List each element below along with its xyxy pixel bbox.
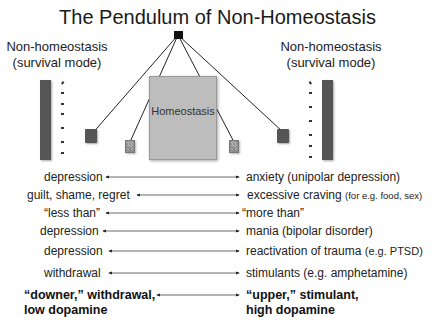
row-5-right-main: reactivation of trauma [246, 244, 361, 258]
row-1-right-main: anxiety (unipolar depression) [246, 170, 400, 184]
row-5-left: depression [44, 244, 103, 258]
row-3-right-main: “more than” [242, 206, 304, 220]
double-arrows [0, 0, 435, 334]
row-5-right-note: (e.g. PTSD) [365, 245, 423, 257]
row-1-right: anxiety (unipolar depression) [246, 170, 400, 184]
row-1-left: depression [44, 170, 103, 184]
row-6-right: stimulants (e.g. amphetamine) [246, 266, 407, 280]
row-6-left: withdrawal [44, 266, 101, 280]
row-2-right-main: excessive craving [247, 188, 342, 202]
row-2-right-note: (for e.g. food, sex) [345, 190, 422, 201]
row-3-right: “more than” [242, 206, 304, 220]
row-3-left: “less than” [44, 206, 100, 220]
row-2-left: guilt, shame, regret [27, 188, 130, 202]
row-5-right: reactivation of trauma (e.g. PTSD) [246, 244, 423, 258]
summary-right: “upper,” stimulant, high dopamine [246, 288, 359, 318]
summary-left: “downer,” withdrawal, low dopamine [24, 288, 155, 318]
summary-left-line2: low dopamine [24, 303, 155, 318]
summary-right-line1: “upper,” stimulant, [246, 288, 359, 303]
row-2-right: excessive craving (for e.g. food, sex) [247, 188, 422, 203]
row-4-right-main: mania (bipolar disorder) [246, 224, 373, 238]
row-4-left: depression [40, 224, 99, 238]
row-6-right-main: stimulants (e.g. amphetamine) [246, 266, 407, 280]
row-4-right: mania (bipolar disorder) [246, 224, 373, 238]
summary-left-line1: “downer,” withdrawal, [24, 288, 155, 303]
summary-right-line2: high dopamine [246, 303, 359, 318]
